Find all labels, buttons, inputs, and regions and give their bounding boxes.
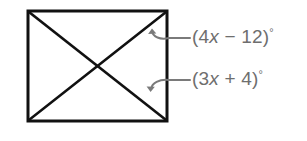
angle-label-top-operator: −	[219, 26, 241, 47]
angle-label-bottom: (3x + 4)°	[192, 69, 263, 88]
angle-label-bottom-prefix: (3	[192, 68, 209, 89]
degree-icon-bottom: °	[259, 68, 264, 80]
angle-label-bottom-constant: 4)	[241, 68, 258, 89]
angle-label-top-constant: 12)	[241, 26, 269, 47]
angle-arrowhead-top	[148, 29, 156, 34]
angle-label-bottom-variable: x	[209, 68, 219, 89]
angle-label-top-prefix: (4	[192, 26, 209, 47]
angle-label-top: (4x − 12)°	[192, 27, 274, 46]
degree-icon-top: °	[269, 26, 274, 38]
angle-label-top-variable: x	[209, 26, 219, 47]
angle-label-bottom-operator: +	[219, 68, 241, 89]
geometry-figure: (4x − 12)° (3x + 4)°	[0, 0, 307, 141]
angle-arrowhead-bottom	[147, 87, 155, 92]
